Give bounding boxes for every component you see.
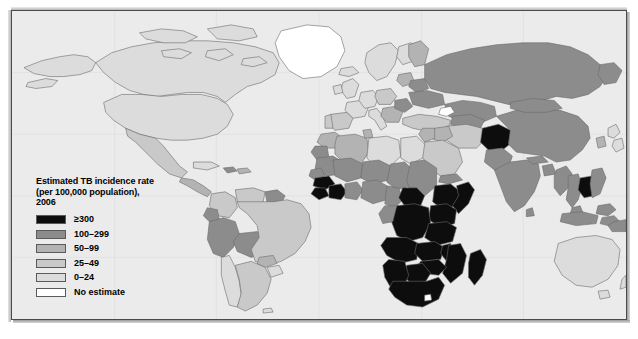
legend-label-no-estimate: No estimate [74, 288, 125, 297]
map-frame: .c { stroke: #6b6b6b; stroke-width: 0.6;… [11, 10, 627, 320]
legend-label-100-299: 100–299 [74, 230, 109, 239]
legend-item-100-299: 100–299 [36, 227, 186, 242]
legend-item-no-estimate: No estimate [36, 285, 186, 300]
map-legend: Estimated TB incidence rate (per 100,000… [36, 176, 186, 300]
legend-label-0-24: 0–24 [74, 273, 94, 282]
legend-item-50-99: 50–99 [36, 242, 186, 257]
frame-shadow-bottom [13, 320, 630, 323]
legend-item-300: ≥300 [36, 213, 186, 228]
legend-label-50-99: 50–99 [74, 244, 99, 253]
legend-title: Estimated TB incidence rate (per 100,000… [36, 176, 186, 208]
legend-swatch-300 [36, 215, 66, 224]
tb-incidence-map-page: .c { stroke: #6b6b6b; stroke-width: 0.6;… [0, 0, 638, 339]
legend-swatch-no-estimate [36, 288, 66, 297]
legend-swatch-100-299 [36, 230, 66, 239]
legend-swatch-50-99 [36, 244, 66, 253]
legend-item-25-49: 25–49 [36, 256, 186, 271]
legend-item-0-24: 0–24 [36, 271, 186, 286]
legend-swatch-25-49 [36, 259, 66, 268]
legend-label-300: ≥300 [74, 215, 94, 224]
frame-shadow-right [627, 12, 630, 322]
legend-label-25-49: 25–49 [74, 259, 99, 268]
legend-swatch-0-24 [36, 273, 66, 282]
